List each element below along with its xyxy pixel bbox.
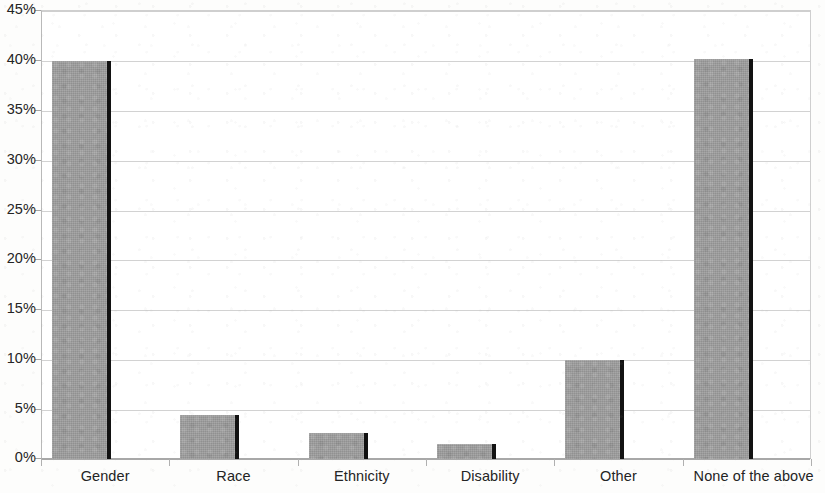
x-tick-label-other: Other (554, 468, 682, 484)
y-tick-label-40: 40% (0, 51, 36, 67)
x-tick-label-gender: Gender (41, 468, 169, 484)
bar-slot-ethnicity (298, 10, 426, 459)
bar-series (41, 10, 811, 459)
x-tick-label-disability: Disability (426, 468, 554, 484)
y-tick-label-35: 35% (0, 101, 36, 117)
bar-chart: 45% 40% 35% 30% 25% 20% 15% 10% 5% 0% (0, 0, 825, 493)
x-tick-label-race: Race (169, 468, 297, 484)
bar-none-of-the-above[interactable] (694, 59, 749, 459)
bar-slot-none-of-the-above (683, 10, 811, 459)
y-tick-label-5: 5% (0, 400, 36, 416)
bar-slot-gender (41, 10, 169, 459)
bar-disability[interactable] (437, 444, 492, 459)
y-tick-label-15: 15% (0, 300, 36, 316)
y-tick-label-20: 20% (0, 250, 36, 266)
x-tick-mark (683, 459, 684, 466)
bar-race[interactable] (180, 415, 235, 459)
x-tick-mark (554, 459, 555, 466)
y-tick-label-0: 0% (0, 449, 36, 465)
bar-slot-other (554, 10, 682, 459)
y-tick-label-45: 45% (0, 1, 36, 17)
x-tick-mark (298, 459, 299, 466)
bar-slot-race (169, 10, 297, 459)
y-tick-label-30: 30% (0, 151, 36, 167)
x-tick-mark (426, 459, 427, 466)
bar-other[interactable] (565, 360, 620, 459)
x-tick-label-none-of-the-above: None of the above (683, 468, 825, 484)
x-tick-mark (169, 459, 170, 466)
bar-ethnicity[interactable] (309, 433, 364, 459)
x-tick-label-ethnicity: Ethnicity (298, 468, 426, 484)
y-tick-label-10: 10% (0, 350, 36, 366)
x-tick-mark (41, 459, 42, 466)
bar-gender[interactable] (52, 61, 107, 459)
x-tick-mark (811, 459, 812, 466)
y-tick-label-25: 25% (0, 201, 36, 217)
bar-slot-disability (426, 10, 554, 459)
